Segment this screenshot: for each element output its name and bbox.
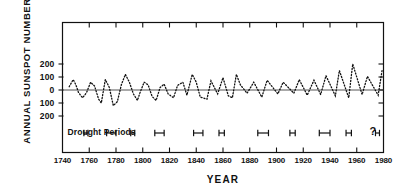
- drought-period-marker: [219, 130, 224, 136]
- y-tick-label: 200: [29, 111, 55, 121]
- x-axis-title: YEAR: [62, 174, 384, 185]
- y-tick-label: 100: [29, 72, 55, 82]
- drought-periods-label: Drought Periods: [68, 127, 136, 137]
- uncertain-period-marker: ?: [370, 125, 377, 137]
- drought-period-marker: [290, 130, 295, 136]
- drought-period-marker: [346, 130, 351, 136]
- drought-period-marker: [319, 130, 330, 136]
- drought-period-marker: [194, 130, 203, 136]
- sunspot-drought-figure: ANNUAL SUNSPOT NUMBERS YEAR 200100010020…: [0, 0, 408, 194]
- x-tick-label: 1980: [367, 156, 401, 165]
- y-tick-label: 0: [29, 85, 55, 95]
- sunspot-series-line: [69, 64, 382, 106]
- drought-period-marker: [258, 130, 269, 136]
- y-tick-label: 200: [29, 59, 55, 69]
- drought-period-marker: [155, 130, 164, 136]
- y-tick-label: 100: [29, 98, 55, 108]
